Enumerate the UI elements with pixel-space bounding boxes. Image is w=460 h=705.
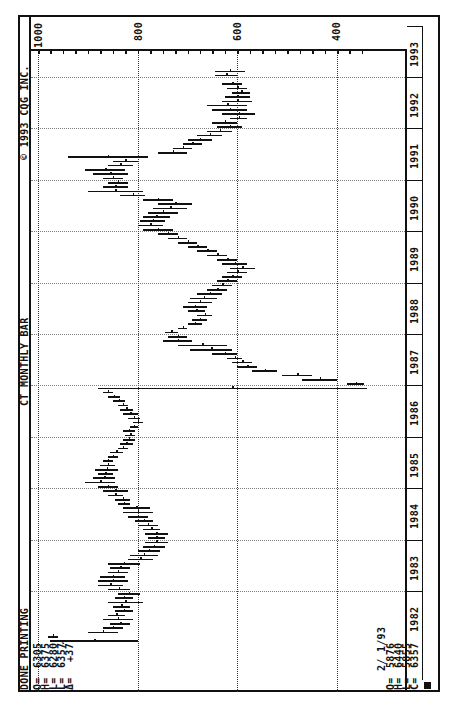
close-tick (121, 604, 123, 607)
price-tick (75, 51, 77, 54)
cursor-value-close: 6357 (409, 643, 420, 668)
price-tick (50, 51, 52, 54)
close-tick (158, 198, 160, 201)
close-tick (123, 446, 125, 449)
close-tick (183, 146, 185, 149)
year-label-text: 1993 (409, 41, 420, 66)
close-tick (207, 249, 209, 252)
close-tick (115, 185, 117, 188)
close-tick (200, 300, 202, 303)
close-tick (107, 467, 109, 470)
close-tick (125, 159, 127, 162)
close-tick (105, 168, 107, 171)
close-tick (108, 155, 110, 158)
year-label-text: 1991 (409, 144, 420, 169)
close-tick (104, 476, 106, 479)
close-tick (105, 472, 107, 475)
year-gridline (31, 180, 405, 181)
price-tick (225, 51, 227, 54)
close-tick (232, 386, 234, 389)
close-tick (239, 116, 241, 119)
close-tick (115, 493, 117, 496)
close-tick (230, 125, 232, 128)
quote-value-change: +37 (64, 643, 75, 662)
close-tick (126, 442, 128, 445)
year-gridline (31, 128, 405, 129)
close-tick (232, 275, 234, 278)
close-tick (227, 258, 229, 261)
close-tick (237, 86, 239, 89)
price-tick (200, 51, 202, 54)
close-tick (108, 485, 110, 488)
year-label-1993: 1993 (407, 26, 423, 77)
year-label-1987: 1987 (407, 334, 423, 385)
close-tick (116, 613, 118, 616)
close-tick (168, 232, 170, 235)
year-label-1989: 1989 (407, 231, 423, 282)
close-tick (119, 587, 121, 590)
plot-area (31, 51, 405, 692)
close-tick (188, 240, 190, 243)
copyright-text: © 1993 CQG INC. (19, 65, 30, 160)
year-gridline (31, 591, 405, 592)
close-tick (94, 639, 96, 642)
price-tick (175, 51, 177, 54)
corner-marker-icon (424, 682, 431, 689)
close-tick (108, 390, 110, 393)
close-tick (222, 283, 224, 286)
close-tick (103, 630, 105, 633)
close-tick (129, 437, 131, 440)
close-tick (237, 99, 239, 102)
year-label-1992: 1992 (407, 77, 423, 128)
close-tick (170, 206, 172, 209)
price-tick (38, 51, 40, 54)
year-gridline (31, 77, 405, 78)
close-tick (144, 519, 146, 522)
year-label-1988: 1988 (407, 283, 423, 334)
price-tick (312, 51, 314, 54)
price-tick (188, 51, 190, 54)
close-tick (235, 262, 237, 265)
year-label-1983: 1983 (407, 540, 423, 591)
close-tick (197, 245, 199, 248)
year-gridline (31, 334, 405, 335)
close-tick (119, 399, 121, 402)
close-tick (200, 138, 202, 141)
price-gridline (237, 51, 238, 692)
close-tick (192, 142, 194, 145)
price-label-800: 800 (133, 22, 144, 41)
close-tick (123, 497, 125, 500)
close-tick (227, 103, 229, 106)
close-tick (210, 133, 212, 136)
close-tick (130, 412, 132, 415)
close-tick (158, 228, 160, 231)
close-tick (227, 279, 229, 282)
price-tick (262, 51, 264, 54)
close-tick (173, 150, 175, 153)
close-tick (113, 455, 115, 458)
close-tick (123, 403, 125, 406)
close-tick (171, 330, 173, 333)
close-tick (118, 570, 120, 573)
year-label-text: 1985 (409, 453, 420, 478)
close-tick (156, 536, 158, 539)
price-label-1000: 1000 (33, 23, 44, 48)
chart-title: CT MONTHLY BAR (19, 318, 30, 407)
year-label-text: 1989 (409, 247, 420, 272)
close-tick (237, 270, 239, 273)
price-tick (150, 51, 152, 54)
price-tick (325, 51, 327, 54)
price-tick (362, 51, 364, 54)
year-label-1991: 1991 (407, 128, 423, 179)
close-tick (124, 609, 126, 612)
quote-label-change: Δ= (64, 677, 75, 690)
close-tick (138, 515, 140, 518)
close-tick (53, 634, 55, 637)
close-tick (178, 335, 180, 338)
close-tick (196, 309, 198, 312)
close-tick (108, 463, 110, 466)
close-tick (225, 120, 227, 123)
year-gridline (31, 231, 405, 232)
close-tick (178, 236, 180, 239)
close-tick (217, 288, 219, 291)
